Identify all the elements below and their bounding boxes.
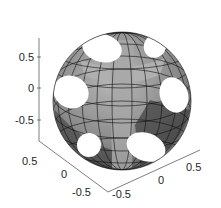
z-axis-ticks: 0.5 0 -0.5 [15,51,34,126]
svg-text:-0.5: -0.5 [112,188,131,200]
svg-text:-0.5: -0.5 [15,114,34,126]
svg-text:0.5: 0.5 [19,51,34,63]
svg-text:0.5: 0.5 [22,155,37,167]
x-axis-ticks: 0.5 0 -0.5 [22,155,91,198]
svg-text:0: 0 [61,168,67,180]
sphere-surface-plot: 0.5 0 -0.5 0.5 0 -0.5 -0.5 0 0.5 [0,0,221,208]
svg-text:0: 0 [28,82,34,94]
svg-text:0: 0 [158,174,164,186]
sphere-body [48,29,193,175]
svg-text:0.5: 0.5 [186,161,201,173]
svg-text:-0.5: -0.5 [72,186,91,198]
